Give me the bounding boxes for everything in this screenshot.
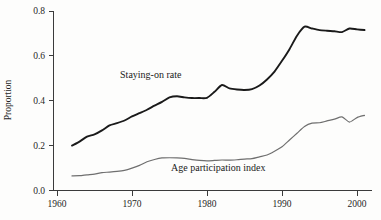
- y-axis: 0.00.20.40.60.8: [33, 6, 53, 196]
- annotation-age-participation-index: Age participation index: [171, 162, 265, 173]
- y-tick-label: 0.4: [33, 96, 45, 106]
- x-tick-label: 1970: [123, 199, 142, 209]
- series-line: [72, 27, 365, 146]
- x-axis-ticks: 19601970198019902000: [48, 191, 367, 210]
- line-chart: 0.00.20.40.60.8 19601970198019902000 Sta…: [0, 0, 381, 220]
- y-axis-title: Proportion: [3, 79, 13, 120]
- y-tick-label: 0.2: [33, 141, 45, 151]
- x-tick-label: 2000: [348, 199, 367, 209]
- y-axis-ticks: 0.00.20.40.60.8: [33, 6, 53, 196]
- y-tick-label: 0.0: [33, 186, 45, 196]
- annotation-staying-on-rate: Staying-on rate: [120, 69, 182, 80]
- y-tick-label: 0.6: [33, 51, 45, 61]
- y-tick-label: 0.8: [33, 6, 45, 16]
- chart-figure: 0.00.20.40.60.8 19601970198019902000 Sta…: [0, 0, 381, 220]
- x-tick-label: 1960: [48, 199, 67, 209]
- series-annotations: Staying-on rateAge participation index: [120, 69, 265, 173]
- x-axis: 19601970198019902000: [48, 191, 373, 210]
- x-tick-label: 1990: [273, 199, 292, 209]
- series-lines: [72, 27, 365, 176]
- x-tick-label: 1980: [198, 199, 217, 209]
